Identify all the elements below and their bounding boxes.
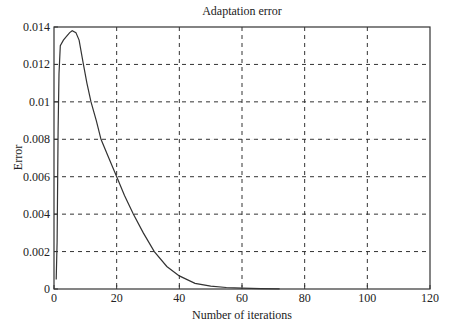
x-axis-label: Number of iterations (54, 308, 430, 323)
axis-ticks: 02040608010012000.0020.0040.0060.0080.01… (23, 20, 439, 305)
x-tick-label: 40 (173, 291, 185, 305)
x-tick-label: 120 (421, 291, 439, 305)
grid-lines (54, 27, 430, 289)
x-tick-label: 0 (51, 291, 57, 305)
chart-title: Adaptation error (54, 4, 430, 19)
y-tick-label: 0.014 (23, 20, 50, 34)
y-tick-label: 0 (44, 282, 50, 296)
x-tick-label: 80 (299, 291, 311, 305)
error-curve (56, 31, 279, 289)
y-tick-label: 0.012 (23, 57, 50, 71)
line-chart: 02040608010012000.0020.0040.0060.0080.01… (0, 0, 450, 329)
y-axis-label: Error (11, 128, 26, 188)
x-tick-label: 20 (111, 291, 123, 305)
y-tick-label: 0.004 (23, 207, 50, 221)
x-tick-label: 100 (358, 291, 376, 305)
y-tick-label: 0.01 (29, 95, 50, 109)
x-tick-label: 60 (236, 291, 248, 305)
y-tick-label: 0.008 (23, 132, 50, 146)
y-tick-label: 0.002 (23, 245, 50, 259)
y-tick-label: 0.006 (23, 170, 50, 184)
